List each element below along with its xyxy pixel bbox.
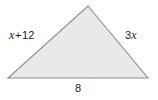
side-label-right: 3x [125, 29, 137, 41]
left-constant: 12 [22, 29, 34, 41]
geometry-figure: x+12 3x 8 [0, 0, 158, 100]
side-label-left: x+12 [9, 29, 34, 41]
right-variable: x [131, 28, 136, 42]
left-operator: + [14, 29, 22, 41]
triangle-polygon [8, 6, 148, 78]
side-label-base: 8 [75, 83, 81, 94]
